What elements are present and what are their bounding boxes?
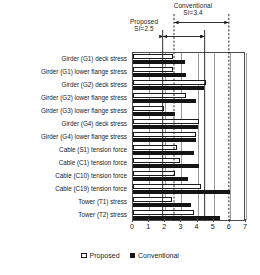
gridline-7 bbox=[246, 53, 247, 220]
bar-rows bbox=[133, 53, 244, 220]
bar-row bbox=[133, 53, 244, 66]
x-tick-label: 1 bbox=[141, 222, 155, 231]
bar-conventional bbox=[133, 60, 185, 65]
bar-conventional bbox=[133, 151, 194, 156]
category-label: Girder (G4) lower flange stress bbox=[41, 130, 127, 143]
category-label: Cable (S1) tension force bbox=[59, 143, 127, 156]
x-tick-mark bbox=[132, 219, 133, 223]
bar-proposed bbox=[133, 119, 199, 124]
x-tick-mark bbox=[148, 219, 149, 223]
x-tick-label: 3 bbox=[173, 222, 187, 231]
bar-row bbox=[133, 105, 244, 118]
bar-proposed bbox=[133, 158, 180, 163]
bar-conventional bbox=[133, 190, 230, 195]
bar-row bbox=[133, 66, 244, 79]
bar-proposed bbox=[133, 184, 201, 189]
bar-row bbox=[133, 118, 244, 131]
bar-row bbox=[133, 157, 244, 170]
annotation-layer: Proposed SI=2.5 Conventional SI=3.4 bbox=[0, 0, 260, 52]
category-label: Cable (C1) tension force bbox=[59, 156, 127, 169]
bar-row bbox=[133, 196, 244, 209]
bar-conventional bbox=[133, 86, 204, 91]
bar-proposed bbox=[133, 210, 194, 215]
x-tick-mark bbox=[245, 219, 246, 223]
bar-proposed bbox=[133, 197, 172, 202]
annotation-conventional-si: Conventional SI=3.4 bbox=[162, 2, 224, 17]
x-tick-mark bbox=[229, 219, 230, 223]
bar-conventional bbox=[133, 138, 196, 143]
bar-conventional bbox=[133, 203, 191, 208]
bar-row bbox=[133, 144, 244, 157]
category-label: Tower (T2) stress bbox=[78, 208, 127, 221]
bar-row bbox=[133, 170, 244, 183]
category-label: Girder (G1) lower flange stress bbox=[41, 65, 127, 78]
bar-row bbox=[133, 183, 244, 196]
legend-swatch-filled bbox=[130, 253, 136, 259]
x-axis-ticks: 01234567 bbox=[132, 222, 245, 234]
bar-row bbox=[133, 131, 244, 144]
bar-row bbox=[133, 209, 244, 222]
category-label: Girder (G3) lower flange stress bbox=[41, 104, 127, 117]
legend-swatch-open bbox=[81, 253, 87, 259]
bar-proposed bbox=[133, 93, 186, 98]
bar-proposed bbox=[133, 171, 175, 176]
annotation-conventional-title: Conventional bbox=[162, 2, 224, 9]
annotation-proposed-si: Proposed SI=2.5 bbox=[121, 18, 167, 33]
bar-proposed bbox=[133, 67, 173, 72]
bar-conventional bbox=[133, 125, 198, 130]
bar-conventional bbox=[133, 112, 175, 117]
x-tick-mark bbox=[197, 219, 198, 223]
x-tick-mark bbox=[180, 219, 181, 223]
bar-conventional bbox=[133, 164, 199, 169]
category-label: Girder (G2) lower flange stress bbox=[41, 91, 127, 104]
legend-item[interactable]: Proposed bbox=[81, 252, 119, 259]
bar-proposed bbox=[133, 132, 196, 137]
category-axis-labels: Girder (G1) deck stressGirder (G1) lower… bbox=[0, 52, 130, 221]
annotation-proposed-value: SI=2.5 bbox=[121, 25, 167, 32]
annotation-conventional-value: SI=3.4 bbox=[162, 9, 224, 16]
bar-conventional bbox=[133, 216, 220, 221]
chart-legend: ProposedConventional bbox=[0, 252, 260, 259]
bar-row bbox=[133, 92, 244, 105]
x-tick-mark bbox=[164, 219, 165, 223]
legend-item[interactable]: Conventional bbox=[130, 252, 179, 259]
category-label: Cable (C19) tension force bbox=[55, 182, 127, 195]
x-tick-label: 7 bbox=[238, 222, 252, 231]
category-label: Girder (G4) deck stress bbox=[62, 117, 127, 130]
category-label: Tower (T1) stress bbox=[78, 195, 127, 208]
bar-chart-figure: Proposed SI=2.5 Conventional SI=3.4 Gird… bbox=[0, 0, 260, 275]
legend-label: Conventional bbox=[138, 252, 179, 259]
bar-proposed bbox=[133, 145, 177, 150]
x-tick-label: 6 bbox=[222, 222, 236, 231]
x-tick-label: 0 bbox=[125, 222, 139, 231]
x-tick-mark bbox=[213, 219, 214, 223]
category-label: Girder (G2) deck stress bbox=[62, 78, 127, 91]
annotation-proposed-title: Proposed bbox=[121, 18, 167, 25]
bar-proposed bbox=[133, 80, 206, 85]
x-tick-label: 5 bbox=[206, 222, 220, 231]
bar-conventional bbox=[133, 99, 196, 104]
x-tick-label: 2 bbox=[157, 222, 171, 231]
bar-proposed bbox=[133, 54, 173, 59]
bar-proposed bbox=[133, 106, 164, 111]
legend-label: Proposed bbox=[90, 252, 120, 259]
bar-conventional bbox=[133, 73, 186, 78]
category-label: Cable (C10) tension force bbox=[55, 169, 127, 182]
plot-area bbox=[132, 52, 245, 221]
bar-conventional bbox=[133, 177, 188, 182]
x-tick-label: 4 bbox=[190, 222, 204, 231]
category-label: Girder (G1) deck stress bbox=[62, 52, 127, 65]
bar-row bbox=[133, 79, 244, 92]
